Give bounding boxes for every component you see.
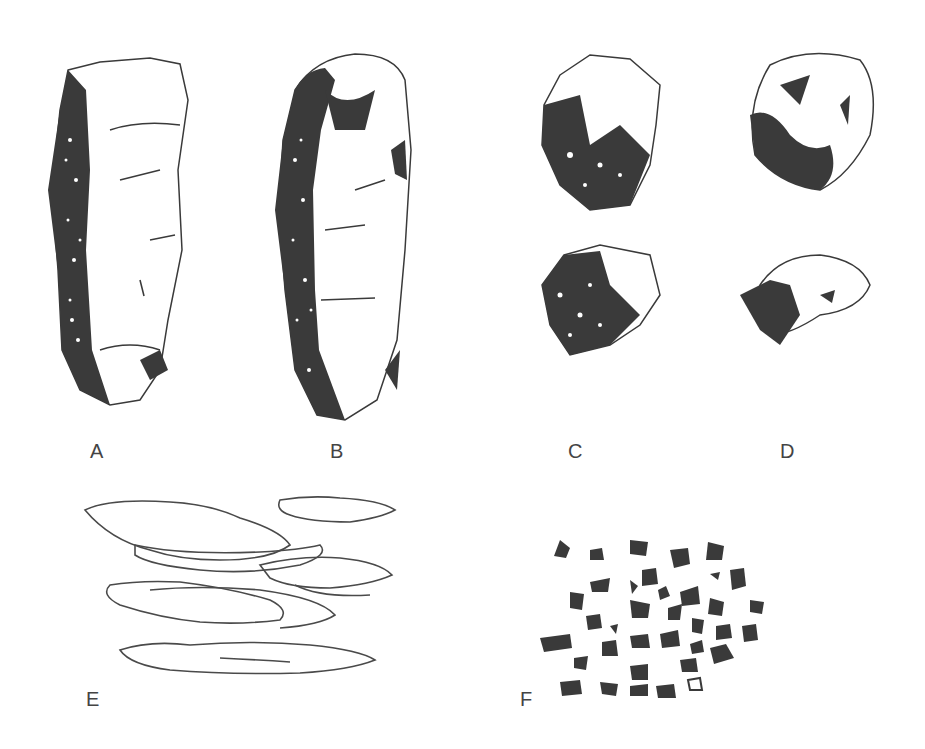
panel-c-label: C (568, 440, 582, 463)
angular-blocky-illustration (530, 45, 680, 385)
panel-a (40, 50, 200, 410)
panel-a-label: A (90, 440, 103, 463)
panel-b-label: B (330, 440, 343, 463)
subangular-blocky-illustration (740, 45, 890, 365)
panel-b (265, 50, 425, 430)
panel-f (530, 530, 780, 700)
panel-f-label: F (520, 688, 532, 711)
prismatic-column-illustration (40, 50, 200, 410)
platy-layers-illustration (80, 490, 410, 690)
panel-c (530, 45, 680, 385)
panel-d-label: D (780, 440, 794, 463)
columnar-column-illustration (265, 50, 425, 430)
panel-e (80, 490, 410, 690)
panel-d (740, 45, 890, 365)
panel-e-label: E (86, 688, 99, 711)
granular-crumbs-illustration (530, 530, 780, 700)
